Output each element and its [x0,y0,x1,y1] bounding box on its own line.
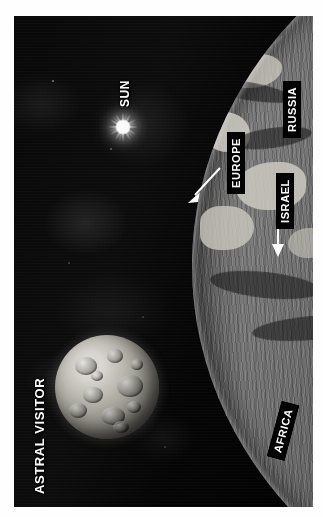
sun-object [106,110,140,144]
astral-visitor-object [55,335,159,439]
label-russia: RUSSIA [283,81,301,138]
crater [107,349,123,363]
crater [83,387,103,403]
crater [113,421,129,433]
crater [117,375,143,397]
crater [69,403,87,418]
surface-bright-patch [236,162,306,210]
crater [91,371,103,381]
image-canvas: ASTRAL VISITOR SUN RUSSIA EUROPE ISRAEL … [0,0,323,517]
photograph: ASTRAL VISITOR SUN RUSSIA EUROPE ISRAEL … [14,16,313,507]
label-israel: ISRAEL [276,173,294,229]
label-europe: EUROPE [227,132,245,194]
label-sun: SUN [118,80,132,107]
sun-core [115,119,131,135]
europe-arrow [184,164,224,208]
crater [127,401,141,413]
label-astral-visitor: ASTRAL VISITOR [32,378,47,494]
crater [131,359,143,370]
earth-limb [14,16,313,507]
